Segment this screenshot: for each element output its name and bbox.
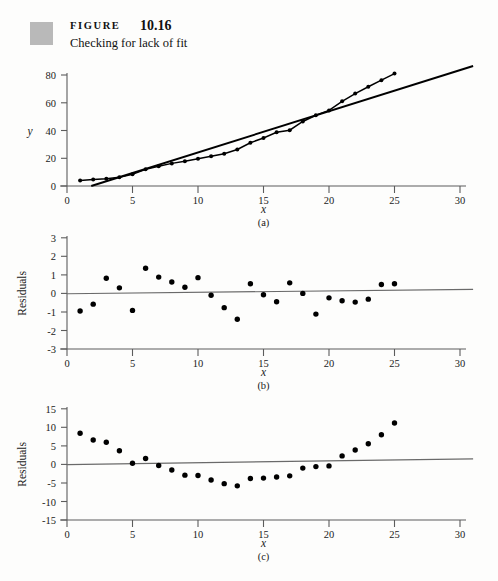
y-tick-label: -15: [42, 515, 56, 526]
y-axis-title-b: Residuals: [16, 271, 28, 316]
y-ticks-b: [61, 238, 67, 349]
data-point: [235, 317, 240, 322]
data-points-c: [77, 420, 397, 488]
figure-header: FIGURE 10.16 Checking for lack of fit: [30, 20, 330, 62]
data-point: [169, 279, 174, 284]
chart-c: 15 10 5 0 -5 -10 -15 Residuals 0 5: [0, 398, 498, 548]
y-tick-label: 10: [46, 422, 57, 433]
y-tick-label: 15: [46, 404, 57, 415]
data-point: [300, 291, 305, 296]
data-point: [104, 177, 108, 181]
y-tick-label: -3: [47, 344, 56, 355]
data-point: [182, 285, 187, 290]
data-point: [117, 285, 122, 290]
data-point: [156, 463, 161, 468]
data-point: [327, 108, 331, 112]
data-point: [157, 164, 161, 168]
data-point: [222, 152, 226, 156]
data-point: [261, 475, 266, 480]
figure-caption: Checking for lack of fit: [70, 36, 187, 51]
panel-caption-b: (b): [257, 380, 270, 392]
data-point: [77, 431, 82, 436]
data-point: [340, 99, 344, 103]
y-axis-title-c: Residuals: [16, 442, 28, 487]
y-tick-label: 80: [46, 70, 57, 81]
y-tick-label: 20: [46, 153, 57, 164]
y-tick-label: 60: [46, 98, 57, 109]
data-point: [91, 437, 96, 442]
y-ticks-c: [61, 409, 67, 520]
chart-a-labels: x (a): [0, 202, 498, 230]
y-tick-label: 1: [51, 270, 56, 281]
data-point: [235, 148, 239, 152]
data-point: [353, 92, 357, 96]
data-point: [353, 447, 358, 452]
data-point: [143, 266, 148, 271]
data-point: [274, 474, 279, 479]
zero-reference-line-b: [67, 289, 473, 293]
data-point: [131, 172, 135, 176]
chart-b-labels: x (b): [0, 365, 498, 393]
data-point: [222, 481, 227, 486]
data-point: [366, 441, 371, 446]
data-point: [287, 280, 292, 285]
y-tick-label: 3: [51, 233, 56, 244]
y-tick-label: 5: [51, 441, 56, 452]
data-point: [104, 276, 109, 281]
data-point: [353, 299, 358, 304]
data-point: [288, 128, 292, 132]
data-point: [144, 167, 148, 171]
data-point: [393, 72, 397, 76]
smooth-curve-a: [80, 74, 394, 181]
data-point: [326, 295, 331, 300]
data-point: [366, 85, 370, 89]
y-ticks-a: [61, 75, 67, 186]
data-point: [117, 175, 121, 179]
data-point: [313, 311, 318, 316]
data-point: [287, 473, 292, 478]
data-point: [77, 308, 82, 313]
y-tick-label: -2: [47, 326, 56, 337]
x-axis-title-b: x: [260, 366, 267, 378]
y-tick-labels-c: 15 10 5 0 -5 -10 -15: [42, 404, 56, 526]
x-axis-title-c: x: [260, 537, 267, 549]
figure-label: FIGURE: [70, 20, 120, 31]
chart-a: 80 60 40 20 0 y 0 5 10 15: [0, 62, 498, 210]
data-point: [326, 463, 331, 468]
data-point: [392, 281, 397, 286]
y-tick-label: 0: [51, 181, 56, 192]
data-point: [314, 113, 318, 117]
data-point: [195, 473, 200, 478]
data-point: [196, 157, 200, 161]
data-point: [248, 281, 253, 286]
data-point: [248, 141, 252, 145]
data-point: [235, 483, 240, 488]
y-tick-label: -5: [47, 478, 56, 489]
data-point: [183, 159, 187, 163]
data-points-b: [77, 266, 397, 322]
data-point: [379, 78, 383, 82]
chart-c-labels: x (c): [0, 536, 498, 566]
y-tick-label: -10: [42, 497, 56, 508]
panel-caption-c: (c): [258, 551, 270, 563]
data-point: [117, 448, 122, 453]
x-ticks-a: [67, 186, 460, 193]
panel-a: 80 60 40 20 0 y 0 5 10 15: [0, 62, 498, 210]
x-ticks-c: [67, 520, 460, 527]
data-point: [313, 464, 318, 469]
y-axis-title-a: y: [26, 125, 33, 138]
data-point: [78, 178, 82, 182]
y-tick-label: 0: [51, 459, 56, 470]
figure-page: FIGURE 10.16 Checking for lack of fit 80…: [0, 0, 498, 581]
data-point: [130, 461, 135, 466]
y-tick-label: 40: [46, 126, 57, 137]
panel-b: 3 2 1 0 -1 -2 -3 Residuals 0 5: [0, 230, 498, 378]
y-tick-label: 0: [51, 288, 56, 299]
data-point: [274, 299, 279, 304]
data-point: [301, 119, 305, 123]
data-point: [91, 301, 96, 306]
data-point: [392, 420, 397, 425]
data-point: [339, 298, 344, 303]
data-point: [169, 467, 174, 472]
y-tick-label: 2: [51, 251, 56, 262]
